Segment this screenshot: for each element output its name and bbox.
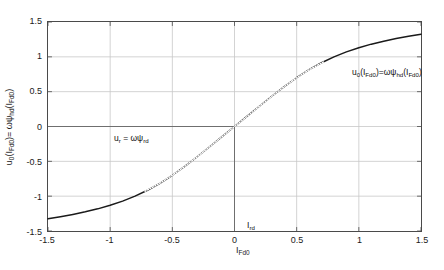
series-path: [145, 62, 324, 192]
data-curves: [48, 22, 421, 231]
figure-canvas: ur = ωψrd u0(IFd0)=ωψhd(IFd0) Ird 1.510.…: [0, 0, 444, 270]
y-axis-label: u0(IFd0)= ωψhd(IFd0): [5, 88, 14, 164]
x-tick-label: -1: [105, 236, 113, 245]
plot-area: ur = ωψrd u0(IFd0)=ωψhd(IFd0) Ird: [47, 21, 422, 232]
x-tick-label: 0: [232, 236, 237, 245]
annotation-ur-sub2: rd: [143, 137, 148, 144]
annotation-ird: Ird: [247, 221, 255, 230]
x-tick-label: -0.5: [164, 236, 180, 245]
x-tick-label: -1.5: [39, 236, 55, 245]
annotation-ur-sub: r: [119, 137, 121, 144]
x-tick-label: 1.5: [416, 236, 429, 245]
x-axis-label: IFd0: [236, 246, 250, 255]
annotation-u0: u0(IFd0)=ωψhd(IFd0): [352, 68, 422, 77]
annotation-ird-sub: rd: [249, 224, 254, 231]
x-axis-label-sub: Fd0: [239, 249, 250, 256]
x-tick-label: 1: [357, 236, 362, 245]
x-tick-label: 0.5: [291, 236, 304, 245]
annotation-ur: ur = ωψrd: [114, 134, 149, 143]
y-axis-label-wrapper: u0(IFd0)= ωψhd(IFd0): [2, 21, 16, 232]
